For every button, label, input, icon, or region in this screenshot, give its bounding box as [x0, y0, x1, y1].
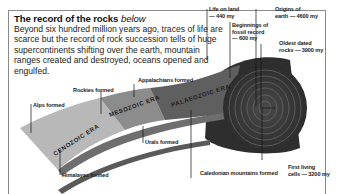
label-rockies-formed: Rockies formed — [73, 87, 114, 94]
label-urals-formed: Urals formed — [145, 139, 178, 146]
label-origins-earth: Origins of earth — 4600 my — [275, 6, 318, 19]
label-caledonian-formed: Caledonian mountains formed — [200, 170, 278, 177]
label-himalayas-formed: Himalayas formed — [62, 172, 109, 179]
label-life-on-land: Life on land — 440 my — [209, 6, 239, 19]
label-fossil-record: Beginnings of fossil record — 600 my — [232, 22, 268, 42]
label-oldest-rocks: Oldest dated rocks — 3900 my — [279, 40, 323, 53]
label-appalachians-formed: Appalachians formed — [138, 77, 193, 84]
label-alps-formed: Alps formed — [33, 102, 65, 109]
label-first-living-cells: First living cells — 3200 my — [288, 164, 330, 177]
